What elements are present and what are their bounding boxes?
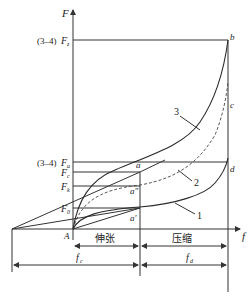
svg-text:(3–4): (3–4) [37,36,57,46]
curve-3 [73,40,228,229]
curve-2-label: 2 [194,177,199,188]
label-F0: F 0 [60,203,70,215]
svg-text:(3–4): (3–4) [37,158,57,168]
curve-1 [73,158,228,229]
svg-text:c: c [67,173,70,179]
curve-1-label: 1 [197,210,202,221]
region-tension-label: 伸张 [95,233,115,244]
point-a-prime: a′ [130,213,138,223]
label-Fk: F k [60,181,70,193]
svg-text:0: 0 [67,209,70,215]
point-a-double-prime: a″ [130,186,139,196]
point-a: a [136,160,141,170]
deflection-dimensions: f c f d [14,252,226,265]
region-dimensions: 伸张 压缩 [75,232,226,246]
line-to-a-prime [12,208,140,229]
point-c: c [230,100,234,110]
y-axis-label: F [61,7,69,19]
region-compression-label: 压缩 [172,232,192,244]
dim-fd-subscript: d [190,258,194,264]
dim-fc-subscript: c [80,258,83,264]
straight-lines [12,160,165,229]
spring-force-deflection-diagram: F f (3–4) F z (3–4) F a F c F k [0,0,252,300]
x-axis: f [12,229,247,242]
point-d: d [230,164,235,174]
point-b: b [230,32,235,42]
svg-text:a: a [67,163,70,169]
line-to-a [12,172,140,229]
svg-text:k: k [67,187,70,193]
svg-text:z: z [66,41,70,47]
point-A: A [63,231,70,241]
label-Fz: (3–4) F z [37,35,70,47]
force-level-labels: (3–4) F z (3–4) F a F c F k F 0 [37,35,70,215]
x-axis-label: f [242,230,247,242]
curve-3-label: 3 [174,106,179,117]
